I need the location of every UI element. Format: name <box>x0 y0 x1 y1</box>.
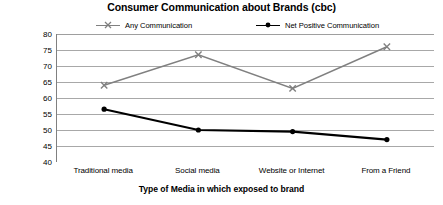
plot-svg <box>57 34 434 162</box>
data-point-marker <box>196 127 201 132</box>
chart-legend: Any Communication Net Positive Communica… <box>96 19 396 31</box>
legend-item-net-positive-communication: Net Positive Communication <box>256 19 379 31</box>
legend-label-any-communication: Any Communication <box>125 21 192 30</box>
x-tick-label: Social media <box>175 166 220 175</box>
data-point-marker <box>290 129 295 134</box>
y-tick-label: 80 <box>32 30 52 39</box>
chart-title: Consumer Communication about Brands (cbc… <box>0 1 443 13</box>
x-tick-label: Website or Internet <box>259 166 325 175</box>
data-point-marker <box>384 137 389 142</box>
data-point-marker <box>102 107 107 112</box>
data-point-marker <box>289 85 295 91</box>
y-tick-label: 40 <box>32 158 52 167</box>
y-tick-label: 75 <box>32 46 52 55</box>
chart-container: Consumer Communication about Brands (cbc… <box>0 0 443 205</box>
y-tick-label: 55 <box>32 110 52 119</box>
legend-swatch-net-positive-communication <box>256 20 280 30</box>
y-tick-label: 45 <box>32 142 52 151</box>
legend-label-net-positive-communication: Net Positive Communication <box>285 21 379 30</box>
y-tick-label: 70 <box>32 62 52 71</box>
legend-swatch-any-communication <box>96 20 120 30</box>
x-axis-title: Type of Media in which exposed to brand <box>0 184 443 194</box>
y-axis: 807570656055504540 <box>28 34 52 162</box>
series-line-2 <box>104 109 387 139</box>
x-axis: Traditional mediaSocial mediaWebsite or … <box>56 166 433 180</box>
circle-marker-icon <box>264 21 272 29</box>
x-tick-label: From a Friend <box>361 166 410 175</box>
plot-area <box>56 34 433 162</box>
y-tick-label: 65 <box>32 78 52 87</box>
x-marker-icon <box>104 21 112 29</box>
y-tick-label: 50 <box>32 126 52 135</box>
legend-item-any-communication: Any Communication <box>96 19 192 31</box>
x-tick-label: Traditional media <box>73 166 132 175</box>
data-point-marker <box>384 44 390 50</box>
y-tick-label: 60 <box>32 94 52 103</box>
